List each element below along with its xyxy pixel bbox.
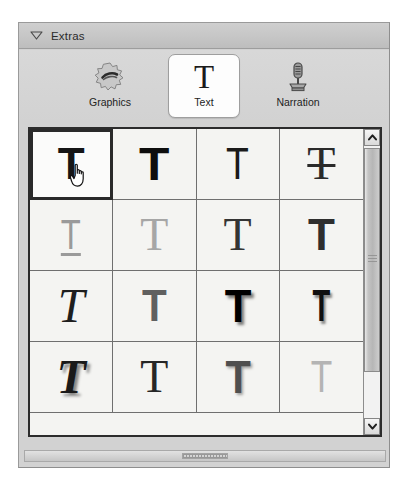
tab-text[interactable]: T Text bbox=[168, 54, 240, 118]
style-thin-sans[interactable]: T bbox=[197, 129, 280, 200]
panel-titlebar: Extras bbox=[19, 23, 389, 49]
tab-narration-label: Narration bbox=[276, 96, 319, 108]
scrollbar-track[interactable] bbox=[364, 146, 380, 418]
style-preview-glyph: T bbox=[225, 354, 250, 400]
tab-graphics[interactable]: Graphics bbox=[74, 54, 146, 118]
vertical-scrollbar[interactable] bbox=[363, 129, 380, 435]
letter-t-icon: T bbox=[184, 59, 224, 95]
text-style-grid: TTTTTTTTTTTTTTTT bbox=[30, 129, 363, 413]
style-preview-glyph: T bbox=[56, 353, 85, 401]
style-dark-slab[interactable]: T bbox=[280, 200, 363, 271]
style-preview-glyph: T bbox=[224, 283, 251, 329]
resize-grip-icon bbox=[182, 453, 228, 459]
style-preview-glyph: T bbox=[308, 213, 335, 257]
text-style-grid-viewport: TTTTTTTTTTTTTTTT bbox=[30, 129, 363, 435]
style-preview-glyph: T bbox=[311, 355, 333, 399]
extras-tabstrip: Graphics T Text Narratio bbox=[19, 50, 389, 122]
style-preview-glyph: T bbox=[226, 142, 249, 186]
style-preview-glyph: T bbox=[140, 354, 168, 400]
style-serif-strikethrough[interactable]: T bbox=[280, 129, 363, 200]
style-light-gray-serif[interactable]: T bbox=[113, 200, 196, 271]
style-narrow-shadow[interactable]: T bbox=[280, 271, 363, 342]
style-heavy-sans[interactable]: T bbox=[113, 129, 196, 200]
chevron-down-icon[interactable] bbox=[364, 418, 380, 435]
style-gray-slab[interactable]: T bbox=[113, 271, 196, 342]
extras-panel: Extras Graphics T Text bbox=[18, 22, 390, 468]
style-preview-glyph: T bbox=[224, 212, 252, 258]
style-preview-glyph: T bbox=[312, 284, 330, 328]
microphone-icon bbox=[278, 59, 318, 95]
scrollbar-thumb[interactable] bbox=[364, 148, 380, 372]
style-preview-glyph: T bbox=[58, 282, 85, 330]
starburst-icon bbox=[90, 59, 130, 95]
triangle-down-icon[interactable] bbox=[25, 23, 47, 49]
style-italic-bold-shadow[interactable]: T bbox=[30, 342, 113, 413]
tab-narration[interactable]: Narration bbox=[262, 54, 334, 118]
style-medium-serif[interactable]: T bbox=[197, 200, 280, 271]
panel-resize-splitter[interactable] bbox=[24, 450, 386, 462]
style-black-slab-shadow[interactable]: T bbox=[197, 271, 280, 342]
style-preview-glyph: T bbox=[139, 141, 169, 187]
style-plain-bold-sans[interactable]: T bbox=[30, 129, 113, 200]
scrollbar-grip-icon bbox=[368, 255, 377, 264]
style-light-gray-underline[interactable]: T bbox=[30, 200, 113, 271]
style-serif-plain[interactable]: T bbox=[113, 342, 196, 413]
tab-graphics-label: Graphics bbox=[89, 96, 131, 108]
style-italic-serif[interactable]: T bbox=[30, 271, 113, 342]
page-title: Extras bbox=[51, 30, 85, 42]
style-preview-glyph: T bbox=[58, 142, 85, 186]
style-preview-glyph: T bbox=[142, 284, 167, 328]
style-gray-bold-shadow[interactable]: T bbox=[197, 342, 280, 413]
tab-text-label: Text bbox=[194, 96, 213, 108]
text-style-gallery: TTTTTTTTTTTTTTTT bbox=[28, 127, 382, 437]
style-preview-glyph: T bbox=[307, 141, 335, 187]
style-preview-glyph: T bbox=[61, 214, 81, 256]
style-preview-glyph: T bbox=[140, 212, 168, 258]
chevron-up-icon[interactable] bbox=[364, 129, 380, 146]
style-light-outline[interactable]: T bbox=[280, 342, 363, 413]
